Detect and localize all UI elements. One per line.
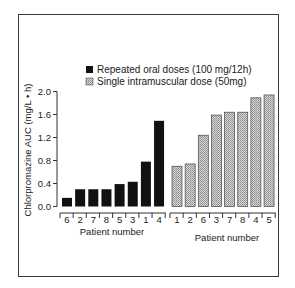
y-tick-label: 1.6	[38, 109, 51, 120]
x-tick-label: 1	[143, 214, 148, 225]
x-tick-label: 5	[266, 214, 271, 225]
x-tick-label: 7	[91, 214, 96, 225]
x-tick-label: 1	[174, 214, 179, 225]
bar	[225, 112, 235, 206]
bar	[172, 166, 182, 206]
y-tick-label: 0.0	[38, 201, 51, 212]
x-axis-label-oral: Patient number	[80, 226, 144, 237]
bars-intramuscular-dose	[172, 95, 274, 207]
y-tick-label: 0.4	[38, 178, 51, 189]
bar	[115, 184, 125, 206]
x-tick-label: 8	[104, 214, 109, 225]
bars-oral-doses	[62, 121, 164, 207]
bar-chart: Repeated oral doses (100 mg/12h) Single …	[0, 0, 295, 288]
x-tick-label: 4	[156, 214, 161, 225]
x-axis-label-im: Patient number	[195, 232, 259, 243]
x-tick-label: 2	[188, 214, 193, 225]
bar	[75, 189, 85, 206]
y-tick-label: 1.2	[38, 132, 51, 143]
x-tick-label: 5	[117, 214, 122, 225]
bar	[211, 115, 221, 206]
bar	[198, 135, 208, 206]
bar	[128, 182, 138, 207]
bar	[62, 198, 72, 207]
x-tick-label: 2	[78, 214, 83, 225]
bar	[88, 189, 98, 206]
x-tick-label: 4	[253, 214, 258, 225]
x-tick-label: 8	[240, 214, 245, 225]
legend-swatch-oral	[86, 66, 93, 73]
legend: Repeated oral doses (100 mg/12h) Single …	[86, 64, 252, 87]
bar	[264, 95, 274, 207]
y-axis: 0.00.40.81.21.62.0	[38, 86, 57, 212]
y-tick-label: 0.8	[38, 155, 51, 166]
bar	[154, 121, 164, 207]
legend-label-oral: Repeated oral doses (100 mg/12h)	[97, 64, 252, 75]
x-axis: 6278531412637845	[60, 213, 276, 225]
x-tick-label: 7	[227, 214, 232, 225]
legend-swatch-im	[86, 78, 93, 85]
legend-label-im: Single intramuscular dose (50mg)	[97, 76, 247, 87]
bar	[101, 189, 111, 206]
y-tick-label: 2.0	[38, 86, 51, 97]
x-tick-label: 6	[64, 214, 69, 225]
x-tick-label: 6	[201, 214, 206, 225]
bar	[185, 164, 195, 207]
x-tick-label: 3	[214, 214, 219, 225]
bar	[141, 162, 151, 207]
y-axis-label: Chlorpromazine AUC (mg/L • h)	[22, 84, 33, 217]
bar	[251, 98, 261, 207]
bar	[238, 112, 248, 206]
x-tick-label: 3	[130, 214, 135, 225]
